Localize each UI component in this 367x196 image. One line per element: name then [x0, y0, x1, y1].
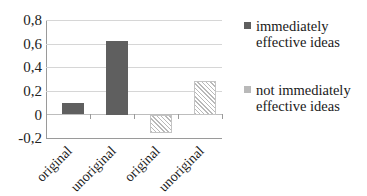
legend-swatch-icon-immediately-effective [244, 22, 251, 29]
y-tick-label-0-4: 0,4 [23, 60, 42, 75]
gridline-neg-0-2 [46, 138, 222, 139]
bar-original-immediately-effective [62, 103, 84, 114]
y-tick-label-0: 0 [35, 108, 43, 123]
x-tick-0 [46, 114, 47, 119]
legend-item-immediately-effective: immediately effective ideas [244, 18, 366, 50]
x-tick-3 [178, 114, 179, 119]
bar-unoriginal-not-immediately-effective [194, 81, 216, 115]
y-tick-label-0-8: 0,8 [23, 13, 42, 28]
legend-label-immediately-effective: immediately effective ideas [256, 18, 366, 50]
legend-label-not-immediately-effective: not immediately effective ideas [256, 82, 366, 114]
gridline-0-8 [46, 20, 222, 21]
bar-unoriginal-immediately-effective [106, 41, 128, 115]
bar-chart: 0,8 0,6 0,4 0,2 0 -0,2 original unorigin… [0, 0, 367, 196]
gridline-0-4 [46, 67, 222, 68]
legend-item-not-immediately-effective: not immediately effective ideas [244, 82, 366, 114]
bar-original-not-immediately-effective [150, 115, 172, 133]
plot-frame [46, 20, 222, 138]
y-axis-tick-labels: 0,8 0,6 0,4 0,2 0 -0,2 [0, 0, 42, 196]
plot-area [46, 20, 222, 138]
y-tick-label-neg-0-2: -0,2 [18, 131, 42, 146]
y-tick-label-0-6: 0,6 [23, 37, 42, 52]
x-tick-1 [90, 114, 91, 119]
y-tick-label-0-2: 0,2 [23, 84, 42, 99]
gridline-0-6 [46, 44, 222, 45]
legend-swatch-icon-not-immediately-effective [244, 86, 251, 93]
x-tick-2 [134, 114, 135, 119]
x-tick-4 [222, 114, 223, 119]
